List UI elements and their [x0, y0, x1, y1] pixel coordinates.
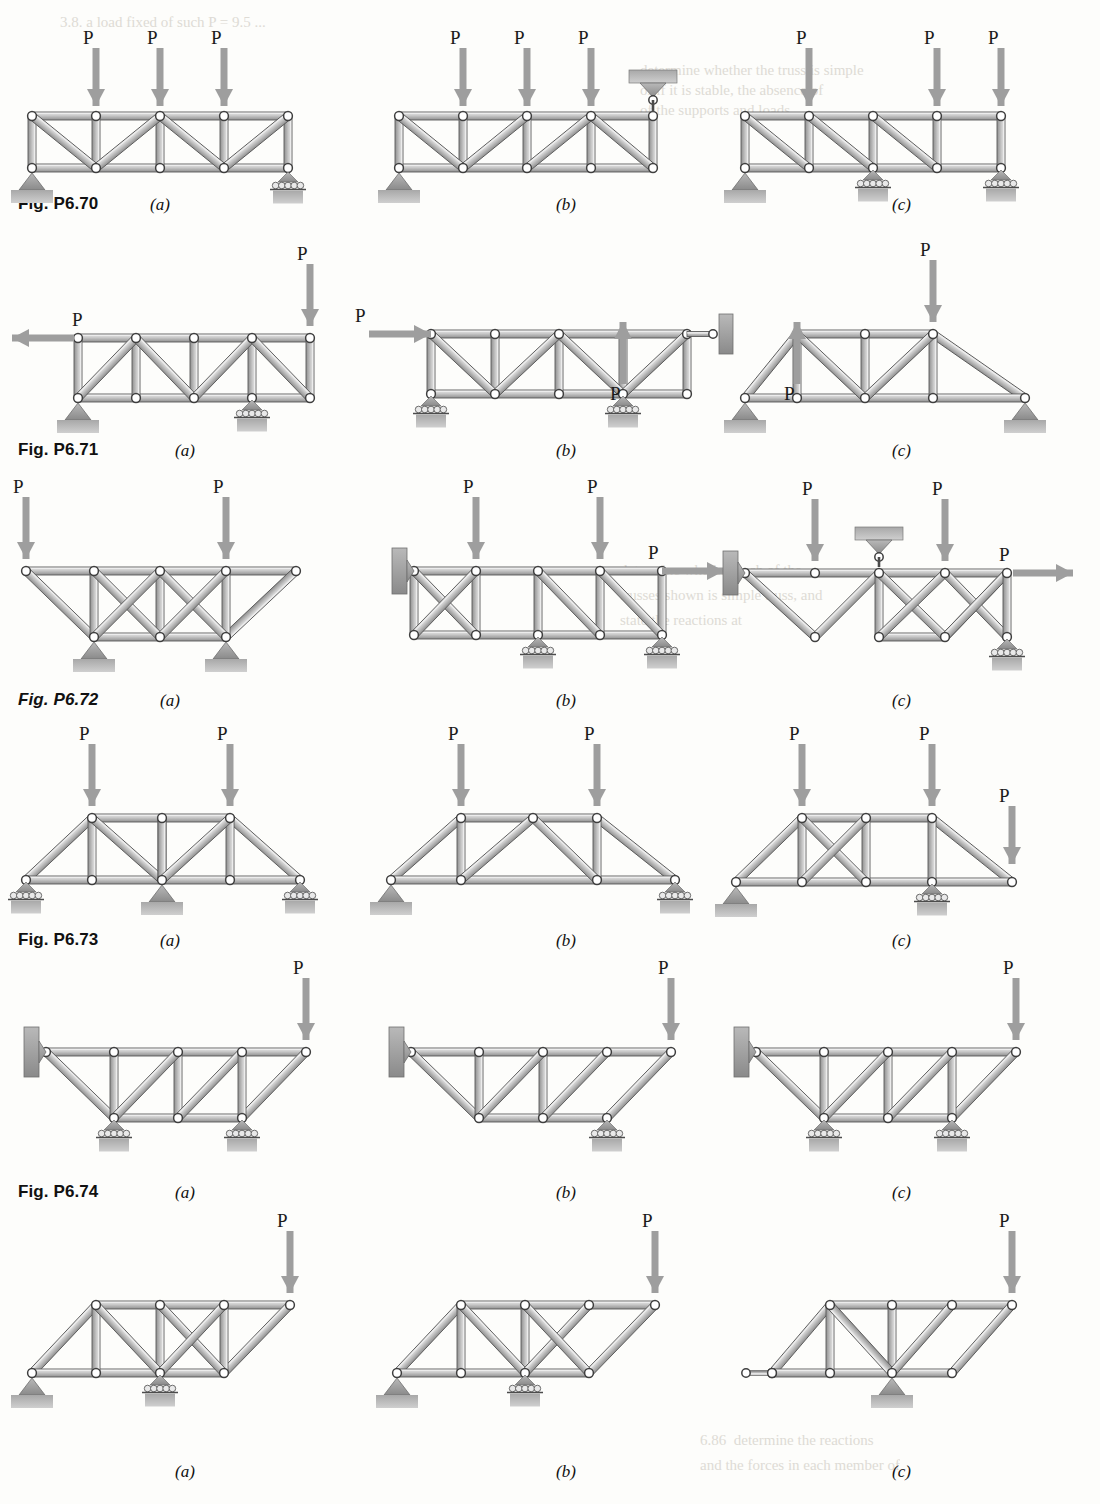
panel-letter-p6-72-c: (c)	[892, 691, 911, 711]
svg-text:P: P	[648, 542, 659, 563]
svg-text:P: P	[293, 957, 304, 978]
svg-text:P: P	[277, 1210, 288, 1231]
svg-text:P: P	[999, 1210, 1010, 1231]
svg-text:P: P	[514, 27, 525, 48]
panel-letter-p6-73-a: (a)	[160, 931, 180, 951]
figure-sheet: 3.8. a load fixed of such P = 9.5 ...det…	[0, 0, 1100, 1504]
svg-text:P: P	[147, 27, 158, 48]
panel-letter-p6-74-c: (c)	[892, 1183, 911, 1203]
figure-label-p6-74: Fig. P6.74	[18, 1182, 98, 1202]
truss-p6-72-c: PPP	[715, 495, 1065, 690]
svg-text:P: P	[463, 476, 474, 497]
svg-text:P: P	[1003, 957, 1014, 978]
svg-text:P: P	[355, 305, 366, 326]
truss-p6-73-c: PPP	[720, 740, 1060, 930]
svg-text:P: P	[587, 476, 598, 497]
truss-p6-74-b: P	[375, 990, 715, 1180]
figure-label-p6-72: Fig. P6.72	[18, 690, 98, 710]
svg-text:P: P	[999, 544, 1010, 565]
svg-text:P: P	[213, 476, 224, 497]
truss-p6-74-c: P	[720, 990, 1060, 1180]
truss-p6-71-a: PP	[0, 276, 360, 446]
truss-p6-71-b: PP	[375, 276, 705, 446]
panel-letter-p6-74-b: (b)	[556, 1183, 576, 1203]
figure-label-p6-73: Fig. P6.73	[18, 930, 98, 950]
truss-p6-70-a: PPP	[10, 20, 340, 200]
truss-p6-73-b: PP	[375, 740, 715, 930]
panel-letter-p6-75-c: (c)	[892, 1462, 911, 1482]
panel-letter-p6-73-c: (c)	[892, 931, 911, 951]
truss-p6-70-c: PPP	[725, 20, 1055, 200]
truss-p6-72-b: PPP	[370, 495, 720, 690]
truss-p6-75-b: P	[375, 1255, 715, 1460]
svg-text:P: P	[211, 27, 222, 48]
truss-p6-72-a: PP	[8, 495, 338, 690]
svg-text:P: P	[999, 785, 1010, 806]
panel-letter-p6-72-a: (a)	[160, 691, 180, 711]
svg-text:P: P	[920, 239, 931, 260]
truss-p6-71-c: PP	[725, 276, 1055, 446]
svg-text:P: P	[988, 27, 999, 48]
svg-text:P: P	[789, 723, 800, 744]
panel-letter-p6-72-b: (b)	[556, 691, 576, 711]
panel-letter-p6-75-a: (a)	[175, 1462, 195, 1482]
panel-letter-p6-75-b: (b)	[556, 1462, 576, 1482]
svg-text:P: P	[802, 478, 813, 499]
svg-text:P: P	[450, 27, 461, 48]
svg-text:P: P	[796, 27, 807, 48]
svg-text:P: P	[784, 383, 795, 404]
truss-p6-73-a: PP	[10, 740, 340, 930]
svg-text:P: P	[919, 723, 930, 744]
svg-text:P: P	[642, 1210, 653, 1231]
truss-p6-75-a: P	[10, 1255, 350, 1460]
truss-p6-74-a: P	[10, 990, 350, 1180]
svg-text:P: P	[297, 243, 308, 264]
svg-text:P: P	[83, 27, 94, 48]
svg-text:P: P	[79, 723, 90, 744]
svg-text:P: P	[924, 27, 935, 48]
truss-p6-70-b: PPP	[385, 20, 695, 200]
truss-p6-75-c: P	[720, 1255, 1060, 1460]
svg-text:P: P	[584, 723, 595, 744]
svg-text:P: P	[13, 476, 24, 497]
svg-text:P: P	[932, 478, 943, 499]
panel-letter-p6-73-b: (b)	[556, 931, 576, 951]
svg-text:P: P	[578, 27, 589, 48]
svg-text:P: P	[72, 309, 83, 330]
svg-text:P: P	[217, 723, 228, 744]
panel-letter-p6-74-a: (a)	[175, 1183, 195, 1203]
svg-text:P: P	[448, 723, 459, 744]
svg-text:P: P	[658, 957, 669, 978]
